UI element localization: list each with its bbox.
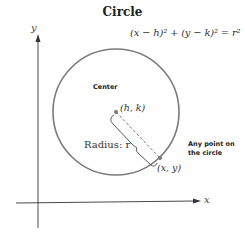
any-point-label-line1: Any point on [188, 140, 235, 149]
radius-label: Radius: r [84, 139, 130, 150]
circle-point [158, 156, 162, 160]
y-axis-arrow-icon [36, 34, 41, 42]
any-point-label: Any point on the circle [188, 140, 235, 158]
diagram-title: Circle [0, 5, 245, 19]
x-axis [16, 201, 195, 203]
circle-equation: (x − h)² + (y − k)² = r² [130, 27, 240, 38]
center-label: Center [93, 83, 118, 91]
any-point-label-line2: the circle [188, 149, 235, 158]
radius-line [116, 112, 160, 158]
x-axis-label: x [204, 194, 210, 205]
y-axis-label: y [31, 22, 37, 33]
point-coordinates-label: (x, y) [157, 162, 181, 173]
center-point [114, 110, 118, 114]
center-coordinates-label: (h, k) [120, 102, 145, 113]
x-axis-arrow-icon [193, 199, 201, 204]
